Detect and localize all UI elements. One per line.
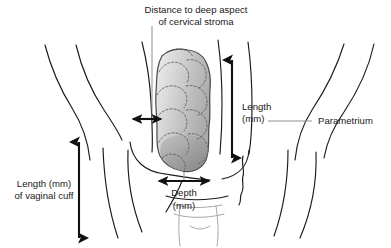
vaginal-wall-right-lower-inner: [274, 150, 288, 236]
vaginal-wall-right-lower-outer: [300, 152, 316, 238]
canal-line-3: [190, 226, 210, 229]
distance-label-line1: Distance to deep aspect: [145, 4, 248, 15]
vaginal-wall-right-outer: [295, 44, 344, 160]
uterine-wall-right: [218, 40, 222, 154]
vaginal-cuff-label-line1: Length (mm): [17, 178, 71, 189]
tumor-mass: [156, 49, 211, 172]
cervical-tumor-measurement-diagram: Distance to deep aspect of cervical stro…: [0, 0, 391, 248]
uterine-wall-left: [142, 42, 152, 152]
vaginal-wall-left-lower-outer: [103, 148, 118, 238]
cervix-right-descent: [239, 156, 244, 205]
canal-wall-right: [216, 206, 218, 246]
uterine-wall-right-outer: [248, 42, 252, 154]
vaginal-wall-right-inner: [324, 44, 374, 158]
length-label-line1: Length: [242, 101, 271, 112]
canal-wall-left: [179, 205, 180, 246]
vaginal-wall-left: [45, 45, 142, 238]
parametrium-label: Parametrium: [318, 115, 373, 126]
length-label-line2: (mm): [242, 113, 264, 124]
vaginal-wall-left-outer: [45, 45, 90, 160]
depth-label-line1: Depth: [171, 187, 197, 198]
vaginal-wall-left-inner: [76, 45, 122, 140]
depth-label-line2: (mm): [173, 200, 195, 211]
vaginal-wall-right: [274, 44, 374, 238]
vaginal-fornix-right: [222, 150, 249, 179]
vaginal-wall-left-lower-inner: [128, 150, 142, 232]
distance-label-line2: of cervical stroma: [158, 16, 234, 27]
ectocervix-border: [165, 174, 210, 180]
diagram-canvas: Distance to deep aspect of cervical stro…: [0, 0, 391, 248]
vaginal-cuff-label-line2: of vaginal cuff: [14, 190, 73, 201]
canal-line-2: [174, 214, 224, 217]
